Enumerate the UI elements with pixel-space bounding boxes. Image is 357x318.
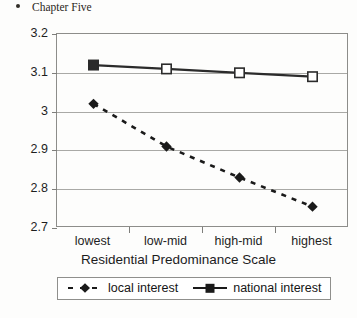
plot-area	[56, 33, 348, 227]
data-point-marker	[161, 141, 171, 151]
chart-legend: local interestnational interest	[57, 277, 331, 300]
line-chart: 3.23.132.92.82.7 lowestlow-midhigh-midhi…	[0, 20, 357, 318]
data-point-marker	[88, 99, 98, 109]
data-point-marker	[307, 201, 317, 211]
data-point-marker	[234, 172, 244, 182]
data-point-marker	[89, 60, 98, 69]
x-axis-tick	[275, 227, 276, 233]
y-axis-label: 2.9	[0, 142, 48, 156]
data-point-marker	[235, 68, 244, 77]
figure-page: ) Chapter Five 3.23.132.92.82.7 lowestlo…	[0, 0, 357, 318]
x-axis-category-label: lowest	[75, 234, 110, 248]
y-axis-label: 2.7	[0, 220, 48, 234]
y-axis-label: 3.2	[0, 26, 48, 40]
y-axis-label: 3	[0, 104, 48, 118]
series-line	[94, 104, 313, 207]
x-axis-category-label: high-mid	[215, 234, 263, 248]
legend-label: local interest	[108, 281, 178, 295]
x-axis-title: Residential Predominance Scale	[0, 252, 357, 267]
legend-item: national interest	[192, 281, 321, 295]
legend-item: local interest	[67, 281, 178, 295]
y-axis-label: 3.1	[0, 65, 48, 79]
running-header: ) Chapter Five	[0, 0, 357, 20]
bullet-dot-icon	[16, 4, 20, 8]
legend-label: national interest	[233, 281, 321, 295]
dashed-diamond-key-icon	[67, 282, 103, 294]
x-axis-category-label: highest	[291, 234, 331, 248]
x-axis-tick	[202, 227, 203, 233]
data-point-marker	[308, 72, 317, 81]
series-line	[94, 65, 313, 77]
x-axis-category-label: low-mid	[144, 234, 187, 248]
chapter-title: Chapter Five	[32, 1, 92, 13]
solid-square-key-icon	[192, 282, 228, 294]
data-point-marker	[162, 64, 171, 73]
y-axis-tick	[52, 228, 57, 229]
y-axis-label: 2.8	[0, 181, 48, 195]
series-layer	[57, 34, 349, 228]
x-axis-tick	[129, 227, 130, 233]
